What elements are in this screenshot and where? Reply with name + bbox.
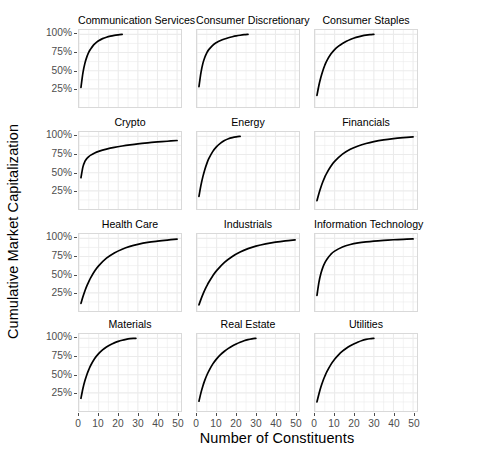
facet-strip-label: Consumer Staples (314, 14, 418, 27)
y-axis-title: Cumulative Market Capitalization (0, 0, 26, 463)
y-tick-mark (74, 393, 77, 394)
facet-panel (78, 29, 182, 108)
x-tick-mark (236, 413, 237, 416)
y-tick-mark (74, 191, 77, 192)
facet-panel (196, 131, 300, 210)
y-tick-mark (74, 173, 77, 174)
x-tick-mark (178, 413, 179, 416)
y-tick-label: 50% (38, 370, 72, 380)
facet-strip-label: Industrials (196, 218, 300, 231)
x-tick-mark (314, 413, 315, 416)
y-tick-label: 100% (38, 232, 72, 242)
y-tick-label: 50% (38, 168, 72, 178)
y-tick-mark (74, 375, 77, 376)
series-line (81, 239, 177, 303)
y-tick-label: 25% (38, 388, 72, 398)
gridlines (197, 132, 299, 209)
x-tick-mark (374, 413, 375, 416)
x-tick-mark (354, 413, 355, 416)
panel-plot-area (197, 132, 299, 209)
facet-strip-label: Crypto (78, 116, 182, 129)
x-tick-mark (138, 413, 139, 416)
x-tick-mark (196, 413, 197, 416)
facet-panel (78, 131, 182, 210)
y-tick-mark (74, 71, 77, 72)
y-tick-mark (74, 135, 77, 136)
x-tick-mark (414, 413, 415, 416)
facet-panel (78, 333, 182, 412)
gridlines (79, 30, 181, 107)
facet-panel (314, 29, 418, 108)
y-tick-label: 100% (38, 130, 72, 140)
facet-strip-label: Real Estate (196, 318, 300, 331)
gridlines (197, 234, 299, 311)
y-tick-label: 25% (38, 186, 72, 196)
facet-panel (196, 29, 300, 108)
panel-plot-area (79, 334, 181, 411)
series-line (81, 34, 122, 87)
gridlines (197, 334, 299, 411)
facet-panel (196, 333, 300, 412)
panel-plot-area (197, 234, 299, 311)
y-tick-label: 25% (38, 84, 72, 94)
facet-strip-label: Financials (314, 116, 418, 129)
y-tick-label: 50% (38, 66, 72, 76)
y-tick-label: 75% (38, 149, 72, 159)
gridlines (197, 30, 299, 107)
x-tick-mark (276, 413, 277, 416)
gridlines (79, 334, 181, 411)
gridlines (79, 132, 181, 209)
y-tick-mark (74, 337, 77, 338)
facet-panel (314, 233, 418, 312)
facet-strip-label: Materials (78, 318, 182, 331)
y-tick-label: 75% (38, 251, 72, 261)
gridlines (315, 334, 417, 411)
y-tick-label: 100% (38, 332, 72, 342)
y-tick-mark (74, 237, 77, 238)
facet-strip-label: Consumer Discretionary (196, 14, 300, 27)
x-tick-mark (158, 413, 159, 416)
gridlines (315, 234, 417, 311)
x-tick-mark (334, 413, 335, 416)
y-tick-mark (74, 154, 77, 155)
y-tick-mark (74, 89, 77, 90)
panel-plot-area (79, 30, 181, 107)
y-tick-label: 75% (38, 47, 72, 57)
x-tick-mark (216, 413, 217, 416)
facet-strip-label: Information Technology (314, 218, 418, 231)
facet-strip-label: Communication Services (78, 14, 182, 27)
panel-plot-area (315, 132, 417, 209)
y-tick-mark (74, 356, 77, 357)
series-line (199, 338, 256, 401)
panel-plot-area (315, 334, 417, 411)
gridlines (315, 30, 417, 107)
series-line (199, 34, 248, 86)
facet-panel (196, 233, 300, 312)
facet-chart-figure: Cumulative Market Capitalization Number … (0, 0, 482, 463)
panel-plot-area (197, 334, 299, 411)
series-line (199, 240, 295, 305)
panel-plot-area (197, 30, 299, 107)
facet-strip-label: Utilities (314, 318, 418, 331)
y-tick-mark (74, 293, 77, 294)
facet-panel (314, 333, 418, 412)
x-tick-mark (256, 413, 257, 416)
y-tick-label: 75% (38, 351, 72, 361)
x-tick-mark (296, 413, 297, 416)
panel-plot-area (315, 30, 417, 107)
panel-plot-area (79, 132, 181, 209)
y-tick-mark (74, 275, 77, 276)
x-tick-mark (118, 413, 119, 416)
facet-strip-label: Energy (196, 116, 300, 129)
facet-strip-label: Health Care (78, 218, 182, 231)
x-tick-mark (78, 413, 79, 416)
panel-plot-area (79, 234, 181, 311)
facet-panel (78, 233, 182, 312)
panel-plot-area (315, 234, 417, 311)
x-tick-label: 50 (400, 419, 428, 429)
y-tick-mark (74, 33, 77, 34)
y-tick-label: 100% (38, 28, 72, 38)
y-tick-label: 25% (38, 288, 72, 298)
y-tick-mark (74, 256, 77, 257)
y-tick-label: 50% (38, 270, 72, 280)
